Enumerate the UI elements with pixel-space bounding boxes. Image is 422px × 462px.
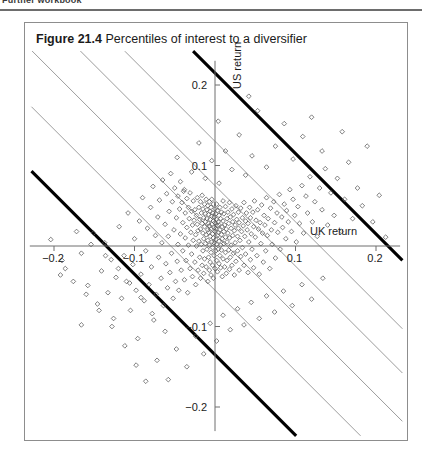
- y-tick-label: 0.1: [192, 160, 207, 172]
- header-rule: [0, 9, 422, 11]
- y-tick-label: −0.1: [185, 321, 207, 333]
- y-tick-label: −0.2: [185, 401, 207, 413]
- x-axis-title: UK return: [310, 225, 357, 237]
- x-tick-label: 0.1: [287, 252, 302, 264]
- page-header: Further workbook: [0, 0, 422, 9]
- scatter-plot: US return UK return −0.2−0.10.10.2−0.2−0…: [25, 23, 409, 442]
- x-tick-label: −0.1: [123, 252, 145, 264]
- x-tick-label: −0.2: [42, 252, 64, 264]
- y-tick-label: 0.2: [192, 79, 207, 91]
- figure-container: Figure 21.4 Percentiles of interest to a…: [24, 22, 408, 441]
- iso-return-lines: [31, 51, 402, 436]
- y-axis-title: US return: [231, 42, 243, 89]
- page-header-text: Further workbook: [2, 0, 82, 5]
- x-tick-label: 0.2: [367, 252, 382, 264]
- plot-axes: [30, 61, 400, 431]
